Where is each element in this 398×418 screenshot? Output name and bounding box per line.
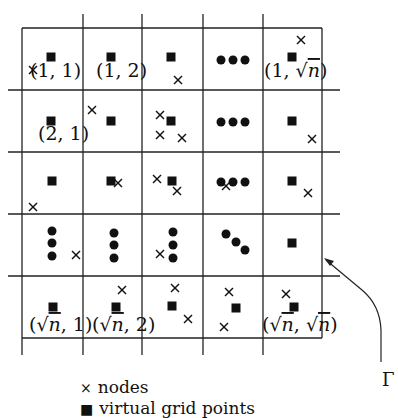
ellipsis-dot-icon xyxy=(241,246,250,255)
grid-point-square-icon xyxy=(168,302,177,311)
cell-label-r2c1: (2, 1) xyxy=(38,122,89,144)
node-cross-icon xyxy=(156,250,164,258)
grid-point-square-icon xyxy=(112,303,121,312)
grid-point-square-icon xyxy=(167,117,176,126)
cell-label-rncn: (√n, √n) xyxy=(262,313,338,335)
ellipsis-dot-icon xyxy=(110,229,119,238)
cell-label-rnc2: (√n, 2) xyxy=(92,313,155,335)
node-cross-icon xyxy=(156,111,164,119)
legend-nodes: ×nodes xyxy=(80,378,149,397)
grid-point-square-icon xyxy=(168,177,177,186)
ellipsis-dot-icon xyxy=(48,239,57,248)
ellipsis-dot-icon xyxy=(169,241,178,250)
node-cross-icon xyxy=(29,203,37,211)
legend-grid-points-label: virtual grid points xyxy=(99,398,255,418)
node-cross-icon xyxy=(156,131,164,139)
ellipsis-dot-icon xyxy=(110,241,119,250)
pointer-arrow-line xyxy=(326,260,381,362)
ellipsis-dot-icon xyxy=(232,238,241,247)
ellipsis-dot-icon xyxy=(110,254,119,263)
node-cross-icon xyxy=(178,134,186,142)
ellipsis-dot-icon xyxy=(229,56,238,65)
grid-point-square-icon xyxy=(288,117,297,126)
ellipsis-dot-icon xyxy=(241,56,250,65)
ellipsis-dot-icon xyxy=(48,227,57,236)
node-cross-icon xyxy=(173,187,181,195)
grid-point-square-icon xyxy=(49,303,58,312)
cell-label-r1c2: (1, 2) xyxy=(96,59,147,81)
grid-point-square-icon xyxy=(288,239,297,248)
cell-label-r1c1: (1, 1) xyxy=(30,59,81,81)
node-cross-icon xyxy=(72,251,80,259)
ellipsis-dot-groups xyxy=(48,56,250,263)
node-cross-icon xyxy=(153,175,161,183)
node-cross-icon xyxy=(308,135,316,143)
cell-label-r1cn: (1, √n) xyxy=(264,59,327,81)
ellipsis-dot-icon xyxy=(169,228,178,237)
ellipsis-dot-icon xyxy=(169,254,178,263)
grid-point-square-icon xyxy=(48,177,57,186)
node-cross-icon xyxy=(220,323,228,331)
grid-point-square-icon xyxy=(167,53,176,62)
grid-point-square-icon xyxy=(107,177,116,186)
square-icon: ■ xyxy=(80,401,93,417)
node-cross-icon xyxy=(88,106,96,114)
ellipsis-dot-icon xyxy=(241,118,250,127)
grid-point-square-icon xyxy=(107,117,116,126)
node-cross-icon xyxy=(174,76,182,84)
node-cross-icon xyxy=(184,315,192,323)
ellipsis-dot-icon xyxy=(217,118,226,127)
cell-label-rnc1: (√n, 1) xyxy=(29,313,92,335)
legend-nodes-label: nodes xyxy=(98,377,149,397)
legend-grid-points: ■virtual grid points xyxy=(80,399,255,418)
node-cross-icon xyxy=(118,286,126,294)
gamma-label: Γ xyxy=(382,369,395,390)
grid-point-square-icon xyxy=(288,177,297,186)
ellipsis-dot-icon xyxy=(241,178,250,187)
virtual-grid-points xyxy=(47,53,299,313)
grid-point-square-icon xyxy=(232,304,241,313)
ellipsis-dot-icon xyxy=(217,56,226,65)
node-cross-icon xyxy=(222,182,230,190)
ellipsis-dot-icon xyxy=(222,230,231,239)
grid-point-square-icon xyxy=(290,303,299,312)
ellipsis-dot-icon xyxy=(229,118,238,127)
ellipsis-dot-icon xyxy=(48,252,57,261)
node-cross-icon xyxy=(225,288,233,296)
cell-coordinate-labels: (1, 1)(1, 2)(1, √n)(2, 1)(√n, 1)(√n, 2)(… xyxy=(29,59,338,335)
node-cross-icon xyxy=(282,290,290,298)
node-cross-icon xyxy=(297,36,305,44)
node-cross-icon xyxy=(171,284,179,292)
node-cross-icon xyxy=(304,189,312,197)
ellipsis-dot-icon xyxy=(217,178,226,187)
cross-icon: × xyxy=(80,380,92,396)
